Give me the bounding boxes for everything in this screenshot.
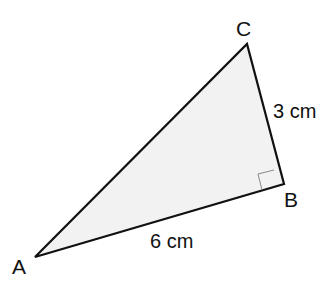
vertex-label-c: C: [236, 17, 251, 40]
vertex-label-a: A: [12, 255, 26, 278]
triangle-diagram: A B C 6 cm 3 cm: [0, 0, 335, 281]
side-label-bc: 3 cm: [273, 100, 316, 122]
side-label-ab: 6 cm: [150, 230, 193, 252]
triangle-abc: [35, 44, 284, 257]
vertex-label-b: B: [284, 188, 298, 211]
